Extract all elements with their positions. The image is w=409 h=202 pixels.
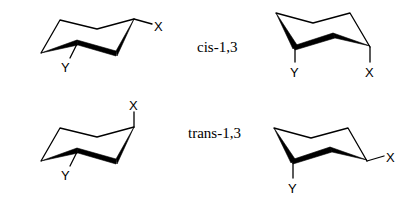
- atom-y: Y: [61, 168, 70, 183]
- atom-y: Y: [61, 60, 70, 75]
- atom-x: X: [386, 150, 395, 165]
- bond-x: [367, 156, 384, 161]
- bond-x: [134, 19, 152, 24]
- ring-front-wedge-left: [41, 40, 78, 53]
- caption-trans: trans-1,3: [188, 125, 241, 141]
- ring-front-bold-bottom: [291, 147, 332, 164]
- atom-y: Y: [290, 65, 299, 80]
- trans-chair-b: X Y: [274, 128, 395, 196]
- cis-chair-b: Y X: [276, 13, 374, 80]
- conformation-diagram: X Y cis-1,3 Y X X Y trans-1,3 X Y: [0, 0, 409, 202]
- atom-x: X: [129, 98, 138, 113]
- ring-front-wedge-right: [116, 19, 134, 56]
- ring-front-wedge-left: [41, 148, 78, 161]
- ring-front-wedge-right: [330, 147, 367, 160]
- trans-chair-a: X Y: [41, 98, 138, 183]
- caption-cis: cis-1,3: [197, 39, 237, 55]
- atom-x: X: [365, 65, 374, 80]
- atom-y: Y: [288, 181, 297, 196]
- atom-x: X: [154, 19, 163, 34]
- ring-front-bold-bottom: [77, 40, 116, 56]
- ring-front-bold-bottom: [293, 33, 335, 50]
- cis-chair-a: X Y: [41, 19, 163, 75]
- ring-front-wedge-right: [333, 33, 370, 46]
- ring-front-bold-bottom: [77, 148, 116, 164]
- ring-front-wedge-right: [116, 127, 134, 164]
